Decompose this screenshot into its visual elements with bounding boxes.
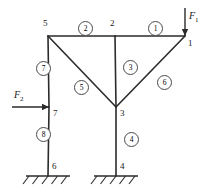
support-hatch [120, 176, 126, 184]
node-label-6: 6 [52, 162, 57, 171]
support-node-6 [23, 176, 70, 184]
support-hatch [52, 176, 58, 184]
support-hatch [101, 176, 107, 184]
structural-diagram-svg [0, 0, 215, 194]
element-number-badge-8: 8 [36, 127, 51, 142]
member-8 [48, 107, 49, 176]
members-layer [48, 36, 185, 176]
load-subscript: 1 [195, 16, 199, 24]
element-number-badge-3: 3 [123, 60, 138, 75]
load-arrow-F1 [182, 8, 188, 36]
node-label-5: 5 [43, 19, 48, 28]
load-arrow-F2 [12, 104, 49, 110]
node-label-2: 2 [110, 19, 115, 28]
load-label-F2: F2 [14, 90, 24, 103]
element-number-badge-7: 7 [36, 61, 51, 76]
support-hatch [110, 176, 116, 184]
supports-layer [23, 176, 138, 184]
support-hatch [129, 176, 135, 184]
element-number-text: 4 [130, 135, 134, 144]
support-node-4 [91, 176, 138, 184]
load-label-F1: F1 [189, 11, 199, 24]
element-number-badge-5: 5 [74, 80, 89, 95]
node-label-7: 7 [53, 109, 58, 118]
load-arrow-head [42, 104, 49, 110]
load-subscript: 2 [20, 95, 24, 103]
element-number-badge-4: 4 [124, 132, 139, 147]
element-number-badge-6: 6 [157, 75, 172, 90]
support-hatch [42, 176, 48, 184]
node-label-4: 4 [120, 162, 125, 171]
node-label-3: 3 [120, 109, 125, 118]
support-hatch [33, 176, 39, 184]
member-5 [48, 36, 116, 107]
element-number-text: 3 [129, 63, 133, 72]
element-number-badge-1: 1 [148, 21, 163, 36]
frame-diagram-canvas: 1234567 12345678 F1F2 [0, 0, 215, 194]
element-number-text: 2 [84, 24, 88, 33]
node-label-1: 1 [188, 39, 193, 48]
member-3 [115, 36, 116, 107]
element-number-badge-2: 2 [78, 21, 93, 36]
load-arrow-head [182, 29, 188, 36]
support-hatch [91, 176, 97, 184]
element-number-text: 6 [163, 78, 167, 87]
support-hatch [23, 176, 29, 184]
element-number-text: 1 [154, 24, 158, 33]
support-hatch [61, 176, 67, 184]
element-number-text: 7 [42, 64, 46, 73]
element-number-text: 5 [80, 83, 84, 92]
element-number-text: 8 [42, 130, 46, 139]
